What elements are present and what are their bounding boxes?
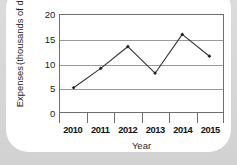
series-expenses xyxy=(60,15,223,112)
x-tick-2 xyxy=(114,113,115,123)
y-tick-label-5: 5 xyxy=(33,84,55,94)
x-tick-label-2013: 2013 xyxy=(142,126,170,138)
line-chart: Expenses (thousands of dollars) 20 15 10… xyxy=(0,0,237,165)
x-tick-5 xyxy=(197,113,198,123)
x-tick-label-2014: 2014 xyxy=(169,126,197,138)
x-tick-6 xyxy=(223,113,224,123)
x-tick-label-2012: 2012 xyxy=(114,126,142,138)
x-tick-label-2015: 2015 xyxy=(197,126,225,138)
x-axis-title: Year xyxy=(59,141,224,151)
y-tick-label-15: 15 xyxy=(33,35,55,45)
y-axis-title-line-2: (thousands of dollars) xyxy=(15,0,25,65)
y-tick-label-20: 20 xyxy=(33,10,55,20)
x-tick-label-2011: 2011 xyxy=(87,126,115,138)
y-tick-label-10: 10 xyxy=(33,60,55,70)
y-axis-title-line-1: Expenses xyxy=(15,66,25,107)
plot-area xyxy=(59,14,224,113)
x-tick-3 xyxy=(142,113,143,123)
x-tick-0 xyxy=(59,113,60,123)
x-tick-4 xyxy=(169,113,170,123)
y-axis-title: Expenses (thousands of dollars) xyxy=(6,0,34,91)
x-axis-labels: 2010 2011 2012 2013 2014 2015 xyxy=(59,126,224,138)
page-background: Expenses (thousands of dollars) 20 15 10… xyxy=(0,0,237,165)
x-tick-1 xyxy=(87,113,88,123)
series-line xyxy=(74,34,210,87)
y-tick-label-0: 0 xyxy=(33,109,55,119)
x-tick-label-2010: 2010 xyxy=(59,126,87,138)
